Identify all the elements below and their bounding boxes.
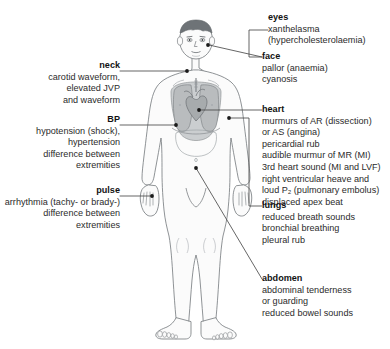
label-abdomen: abdomen abdominal tenderness or guarding… xyxy=(262,273,353,319)
label-face-line-1: pallor (anaemia) xyxy=(262,63,328,75)
label-lungs-line-1: reduced breath sounds xyxy=(262,212,355,224)
label-heart-heading: heart xyxy=(262,104,381,116)
label-eyes: eyes xanthelasma (hypercholesterolaemia) xyxy=(268,12,366,47)
label-face-line-2: cyanosis xyxy=(262,74,328,86)
label-neck: neck carotid waveform, elevated JVP and … xyxy=(0,60,120,106)
dot-abdomen xyxy=(194,166,198,170)
label-pulse-line-1: arrhythmia (tachy- or brady-) xyxy=(0,197,120,209)
label-bp-line-4: extremities xyxy=(0,160,120,172)
label-abdomen-line-1: abdominal tenderness xyxy=(262,285,353,297)
label-eyes-line-1: xanthelasma xyxy=(268,24,366,36)
label-abdomen-line-3: reduced bowel sounds xyxy=(262,308,353,320)
label-heart-line-7: loud P₂ (pulmonary embolus) xyxy=(262,185,381,197)
label-heart-line-1: murmurs of AR (dissection) xyxy=(262,116,381,128)
label-abdomen-heading: abdomen xyxy=(262,273,353,285)
dot-heart xyxy=(197,108,201,112)
dot-lungs xyxy=(227,116,231,120)
label-bp-heading: BP xyxy=(0,114,120,126)
label-lungs: lungs reduced breath sounds bronchial br… xyxy=(262,200,355,246)
dot-neck xyxy=(185,69,189,73)
label-pulse-heading: pulse xyxy=(0,185,120,197)
label-heart-line-2: or AS (angina) xyxy=(262,127,381,139)
leader-face xyxy=(209,45,262,57)
dot-face xyxy=(206,43,210,47)
label-eyes-heading: eyes xyxy=(268,12,366,24)
label-neck-line-1: carotid waveform, xyxy=(0,72,120,84)
label-heart: heart murmurs of AR (dissection) or AS (… xyxy=(262,104,381,208)
label-bp-line-2: hypertension xyxy=(0,137,120,149)
label-neck-line-2: elevated JVP xyxy=(0,83,120,95)
label-neck-line-3: and waveform xyxy=(0,95,120,107)
label-heart-line-4: audible murmur of MR (MI) xyxy=(262,150,381,162)
label-pulse-line-2: difference between xyxy=(0,208,120,220)
label-abdomen-line-2: or guarding xyxy=(262,296,353,308)
label-pulse: pulse arrhythmia (tachy- or brady-) diff… xyxy=(0,185,120,231)
label-lungs-line-2: bronchial breathing xyxy=(262,223,355,235)
label-lungs-line-3: pleural rub xyxy=(262,235,355,247)
label-pulse-line-3: extremities xyxy=(0,220,120,232)
label-heart-line-6: right ventricular heave and xyxy=(262,174,381,186)
label-heart-line-3: pericardial rub xyxy=(262,139,381,151)
label-heart-line-5: 3rd heart sound (MI and LVF) xyxy=(262,162,381,174)
dot-pulse xyxy=(150,194,154,198)
label-face: face pallor (anaemia) cyanosis xyxy=(262,51,328,86)
label-neck-heading: neck xyxy=(0,60,120,72)
figure-caption xyxy=(0,344,390,349)
head xyxy=(177,20,214,59)
label-bp: BP hypotension (shock), hypertension dif… xyxy=(0,114,120,172)
label-eyes-line-2: (hypercholesterolaemia) xyxy=(268,35,366,47)
dot-bp xyxy=(174,123,178,127)
label-bp-line-1: hypotension (shock), xyxy=(0,126,120,138)
label-face-heading: face xyxy=(262,51,328,63)
label-bp-line-3: difference between xyxy=(0,149,120,161)
label-lungs-heading: lungs xyxy=(262,200,355,212)
